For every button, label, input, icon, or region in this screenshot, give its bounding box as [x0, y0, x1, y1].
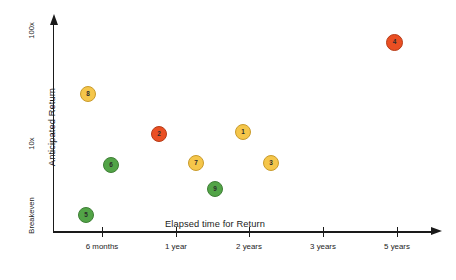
x-tick-mark-6-months — [102, 227, 103, 237]
x-tick-label-5-years: 5 years — [384, 242, 410, 251]
y-axis-title: Anticipated Return — [47, 57, 57, 197]
y-tick-label-10x: 10x — [27, 121, 36, 167]
data-point-bubble[interactable]: 6 — [103, 157, 119, 173]
data-point-bubble[interactable]: 5 — [78, 207, 94, 223]
x-tick-label-3-years: 3 years — [310, 242, 336, 251]
x-tick-label-1-year: 1 year — [165, 242, 187, 251]
bubble-chart: Anticipated Return Elapsed time for Retu… — [0, 0, 456, 280]
data-point-bubble[interactable]: 4 — [386, 34, 403, 51]
data-point-bubble[interactable]: 2 — [151, 126, 167, 142]
data-point-bubble[interactable]: 1 — [235, 124, 251, 140]
y-tick-label-100x: 100x — [27, 8, 36, 54]
x-tick-label-6-months: 6 months — [86, 242, 118, 251]
data-point-bubble[interactable]: 3 — [263, 155, 279, 171]
data-point-bubble[interactable]: 9 — [207, 181, 223, 197]
x-tick-mark-1-year — [176, 227, 177, 237]
x-axis-line — [53, 231, 432, 232]
x-tick-mark-2-years — [249, 227, 250, 237]
data-point-bubble[interactable]: 8 — [80, 86, 96, 102]
y-tick-label-breakeven: Breakeven — [27, 178, 36, 254]
data-point-bubble[interactable]: 7 — [188, 155, 204, 171]
x-tick-mark-3-years — [323, 227, 324, 237]
x-tick-mark-5-years — [397, 227, 398, 237]
y-axis-arrow-icon — [50, 14, 58, 25]
x-tick-label-2-years: 2 years — [236, 242, 262, 251]
x-axis-arrow-icon — [431, 227, 442, 235]
